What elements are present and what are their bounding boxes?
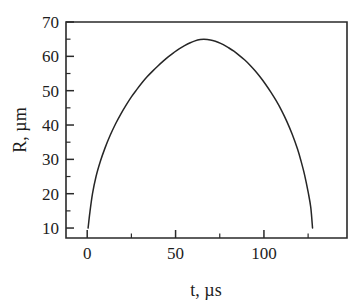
x-tick-label: 50 — [167, 244, 184, 263]
x-tick-label: 0 — [83, 244, 92, 263]
y-tick-label: 10 — [42, 219, 59, 238]
y-tick-label: 40 — [42, 116, 59, 135]
y-tick-label: 70 — [42, 13, 59, 32]
y-tick-label: 30 — [42, 150, 59, 169]
y-tick-label: 60 — [42, 47, 59, 66]
chart-figure: 10203040506070 050100 t, µs R, µm — [0, 0, 360, 308]
chart-plot-area: 10203040506070 050100 t, µs R, µm — [0, 0, 360, 308]
x-axis-title: t, µs — [190, 280, 221, 300]
y-axis-title: R, µm — [10, 107, 30, 152]
x-tick-label: 100 — [251, 244, 277, 263]
y-tick-label: 20 — [42, 185, 59, 204]
y-tick-label: 50 — [42, 82, 59, 101]
